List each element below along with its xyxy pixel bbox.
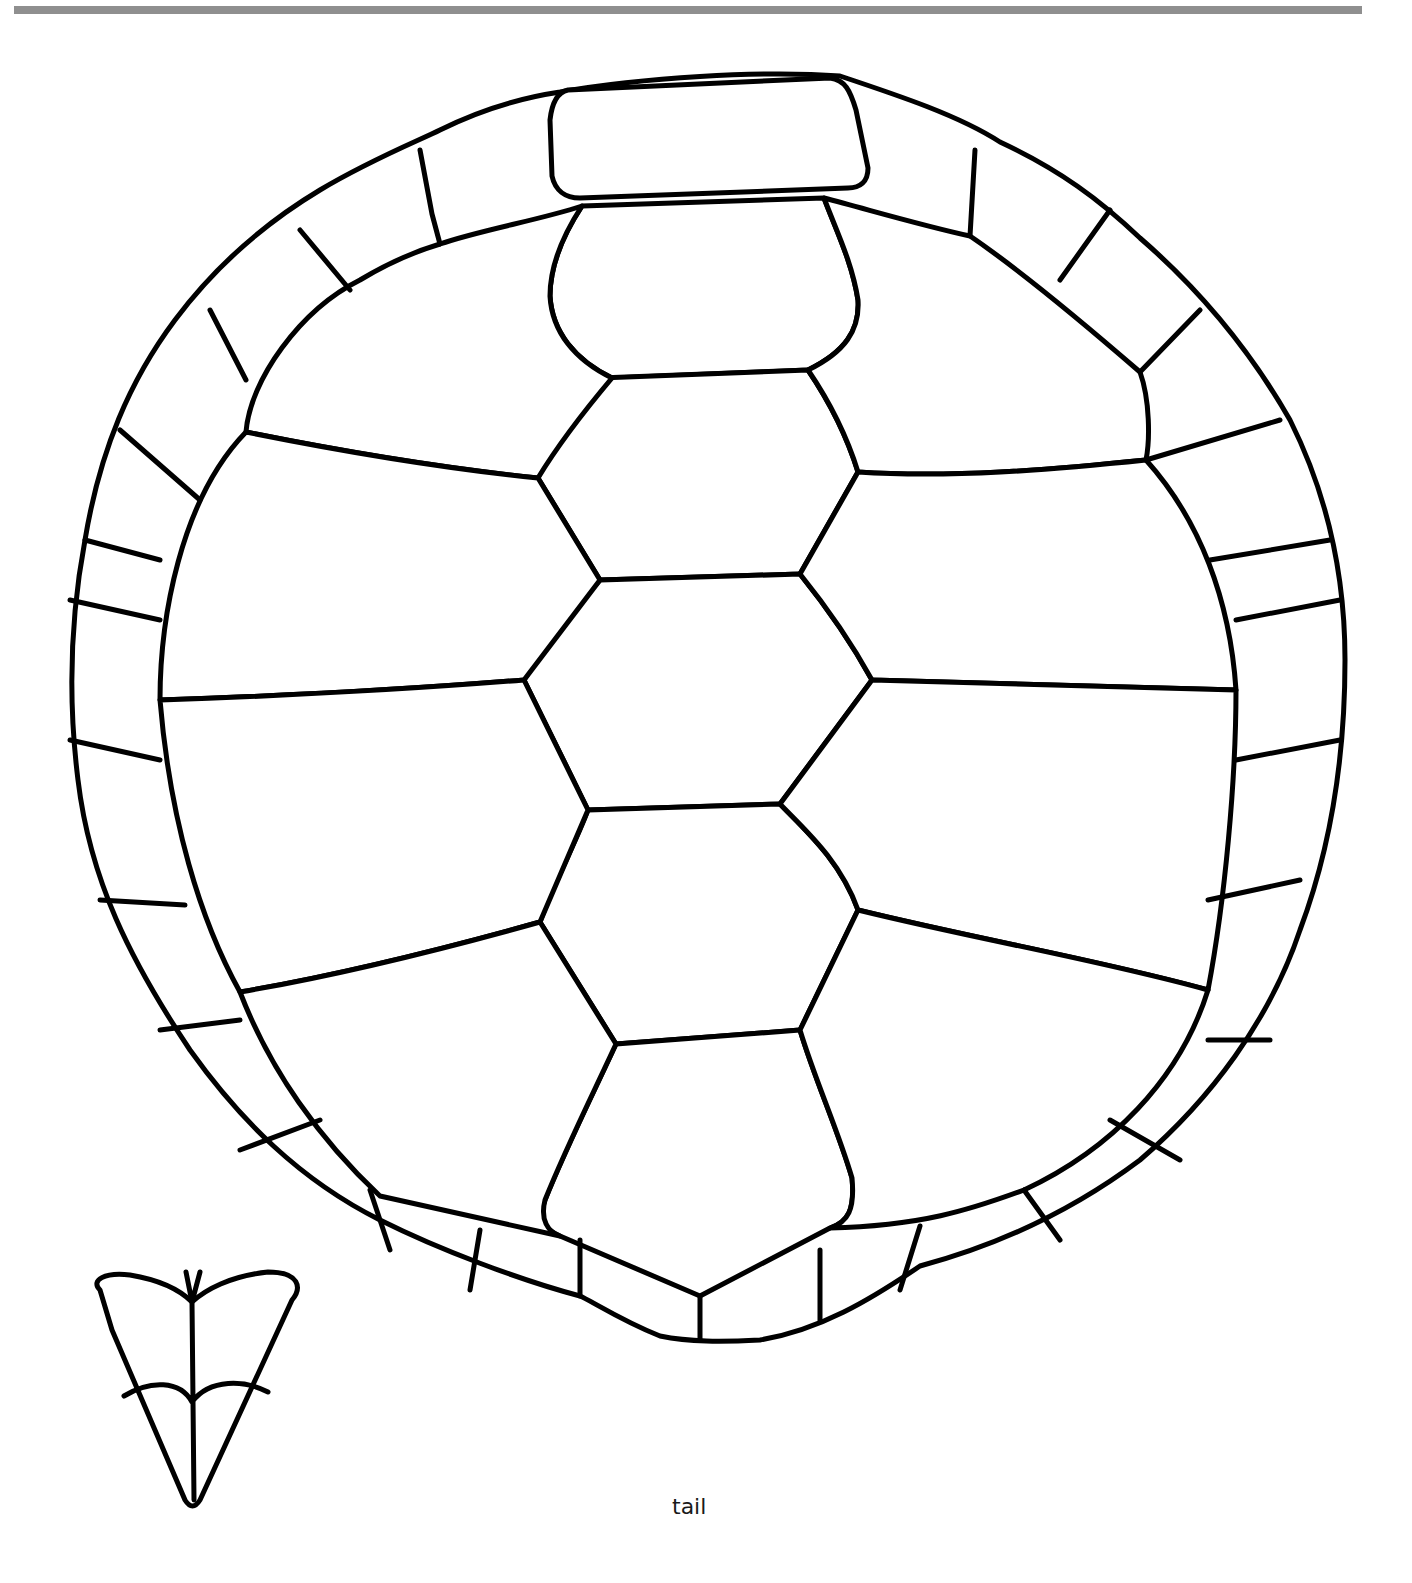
- costal-scute-right-2: [800, 460, 1236, 690]
- tail-arrow-icon: [97, 1272, 297, 1506]
- tail-label: tail: [672, 1494, 706, 1519]
- vertebral-scute-1: [550, 198, 858, 378]
- turtle-shell-diagram: [0, 0, 1412, 1583]
- nuchal-scute: [550, 78, 868, 198]
